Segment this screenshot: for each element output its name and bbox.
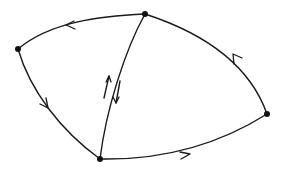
node-right: [264, 111, 270, 117]
edge-left-bottom: [18, 49, 100, 159]
arrow-up-icon: [104, 76, 109, 98]
node-top: [142, 11, 148, 17]
arrow-right-icon: [180, 152, 190, 159]
graph-diagram: [0, 0, 285, 172]
edge-top-left: [18, 14, 145, 49]
edge-right-top: [145, 14, 267, 114]
node-left: [15, 46, 21, 52]
arrow-up-left-icon: [233, 54, 242, 64]
node-bottom: [97, 156, 103, 162]
